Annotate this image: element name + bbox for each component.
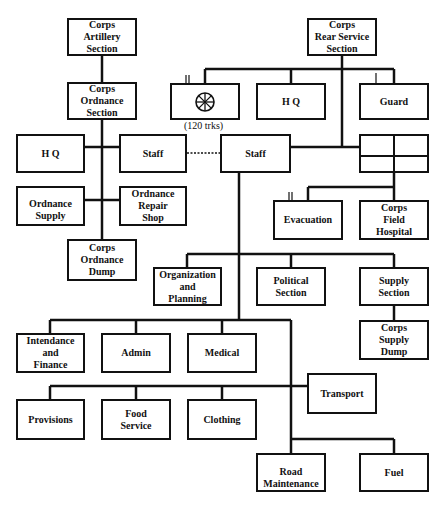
node-provisions: Provisions [16,399,85,440]
node-corps-supply-dump: Corps Supply Dump [359,320,429,360]
node-corps-field-hospital: Corps Field Hospital [359,200,429,240]
node-food-service: Food Service [101,399,171,440]
node-medical: Medical [187,333,257,373]
node-guard: Guard [359,83,429,120]
node-ordnance-repair-shop: Ordnance Repair Shop [119,186,187,226]
node-supply-section: Supply Section [359,267,429,306]
node-transport: Transport [307,373,377,414]
node-evacuation: Evacuation [273,200,343,240]
node-grid-unit [359,134,429,173]
node-road-maintenance: Road Maintenance [256,453,326,492]
node-corps-rear-service-section: Corps Rear Service Section [307,18,377,56]
node-staff-rear-service: Staff [220,134,291,173]
node-clothing: Clothing [187,399,257,440]
wheel-icon [194,91,216,113]
node-intendance-and-finance: Intendance and Finance [16,333,85,373]
node-hq-ordnance: H Q [16,134,85,173]
node-ordnance-supply: Ordnance Supply [16,186,85,226]
node-hq-rear-service: H Q [256,83,326,120]
node-corps-ordnance-dump: Corps Ordnance Dump [67,239,137,281]
node-staff-ordnance: Staff [119,134,187,173]
node-organization-and-planning: Organization and Planning [153,267,222,306]
node-admin: Admin [101,333,171,373]
node-transport-unit [170,83,240,120]
org-chart: Corps Artillery Section Corps Ordnance S… [0,0,443,507]
node-corps-ordnance-section: Corps Ordnance Section [67,82,137,120]
transport-unit-caption: (120 trks) [184,120,223,131]
grid-divider-horizontal [361,155,427,157]
grid-divider-vertical [393,136,395,171]
node-fuel: Fuel [359,453,429,492]
node-political-section: Political Section [256,267,326,306]
node-corps-artillery-section: Corps Artillery Section [67,18,137,56]
